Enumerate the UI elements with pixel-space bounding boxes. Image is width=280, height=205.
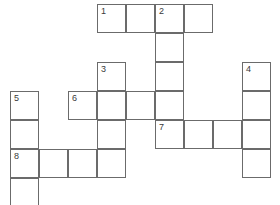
crossword-cell[interactable] xyxy=(39,149,68,178)
crossword-cell-numbered-6[interactable]: 6 xyxy=(68,91,97,120)
cell-number-label: 5 xyxy=(14,93,19,104)
cell-number-label: 3 xyxy=(101,64,106,75)
crossword-cell[interactable] xyxy=(97,120,126,149)
crossword-cell[interactable] xyxy=(242,91,271,120)
crossword-cell[interactable] xyxy=(242,120,271,149)
crossword-cell[interactable] xyxy=(97,91,126,120)
cell-number-label: 1 xyxy=(101,6,106,17)
crossword-cell[interactable] xyxy=(97,149,126,178)
crossword-cell[interactable] xyxy=(242,149,271,178)
crossword-cell[interactable] xyxy=(68,149,97,178)
crossword-cell[interactable] xyxy=(10,120,39,149)
crossword-cell-numbered-1[interactable]: 1 xyxy=(97,4,126,33)
cell-number-label: 4 xyxy=(246,64,251,75)
crossword-cell[interactable] xyxy=(10,178,39,205)
cell-number-label: 6 xyxy=(72,93,77,104)
crossword-puzzle: 12345678 xyxy=(0,0,280,205)
crossword-grid[interactable]: 12345678 xyxy=(0,0,280,205)
cell-number-label: 2 xyxy=(159,6,164,17)
crossword-cell[interactable] xyxy=(184,120,213,149)
crossword-cell[interactable] xyxy=(213,120,242,149)
cell-number-label: 8 xyxy=(14,151,19,162)
crossword-cell-numbered-3[interactable]: 3 xyxy=(97,62,126,91)
crossword-cell[interactable] xyxy=(155,91,184,120)
crossword-cell[interactable] xyxy=(155,62,184,91)
crossword-cell[interactable] xyxy=(126,91,155,120)
cell-number-label: 7 xyxy=(159,122,164,133)
crossword-cell-numbered-2[interactable]: 2 xyxy=(155,4,184,33)
crossword-cell[interactable] xyxy=(155,33,184,62)
crossword-cell-numbered-5[interactable]: 5 xyxy=(10,91,39,120)
crossword-cell[interactable] xyxy=(184,4,213,33)
crossword-cell[interactable] xyxy=(126,4,155,33)
crossword-cell-numbered-7[interactable]: 7 xyxy=(155,120,184,149)
crossword-cell-numbered-4[interactable]: 4 xyxy=(242,62,271,91)
crossword-cell-numbered-8[interactable]: 8 xyxy=(10,149,39,178)
